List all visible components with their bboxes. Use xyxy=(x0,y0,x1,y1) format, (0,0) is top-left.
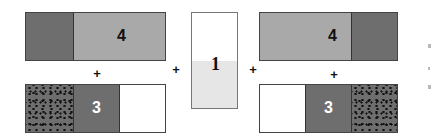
left-bottom-bar: 3 xyxy=(25,84,166,133)
left-top-dark-segment xyxy=(26,13,74,60)
left-bottom-label: 3 xyxy=(92,99,101,117)
right-top-label: 4 xyxy=(328,27,337,45)
right-top-dark-segment xyxy=(352,13,397,60)
right-bottom-label: 3 xyxy=(324,99,333,117)
left-top-bar: 4 xyxy=(25,12,166,61)
right-top-light-segment xyxy=(260,13,352,60)
right-bottom-bar: 3 xyxy=(259,84,398,133)
plus-sign-2: + xyxy=(249,62,257,77)
edge-mark xyxy=(428,85,431,89)
plus-sign-1: + xyxy=(172,62,180,77)
right-bottom-white-segment xyxy=(260,85,306,132)
left-bottom-dotted-segment xyxy=(26,85,74,132)
right-plus-sign: + xyxy=(330,67,338,82)
center-bar: 1 xyxy=(191,12,238,109)
edge-mark xyxy=(428,44,431,48)
left-plus-sign: + xyxy=(93,66,101,81)
right-top-bar: 4 xyxy=(259,12,398,61)
edge-mark xyxy=(428,67,430,70)
center-label: 1 xyxy=(211,54,220,75)
right-bottom-dotted-segment xyxy=(352,85,397,132)
left-top-label: 4 xyxy=(117,27,126,45)
left-bottom-white-segment xyxy=(120,85,165,132)
